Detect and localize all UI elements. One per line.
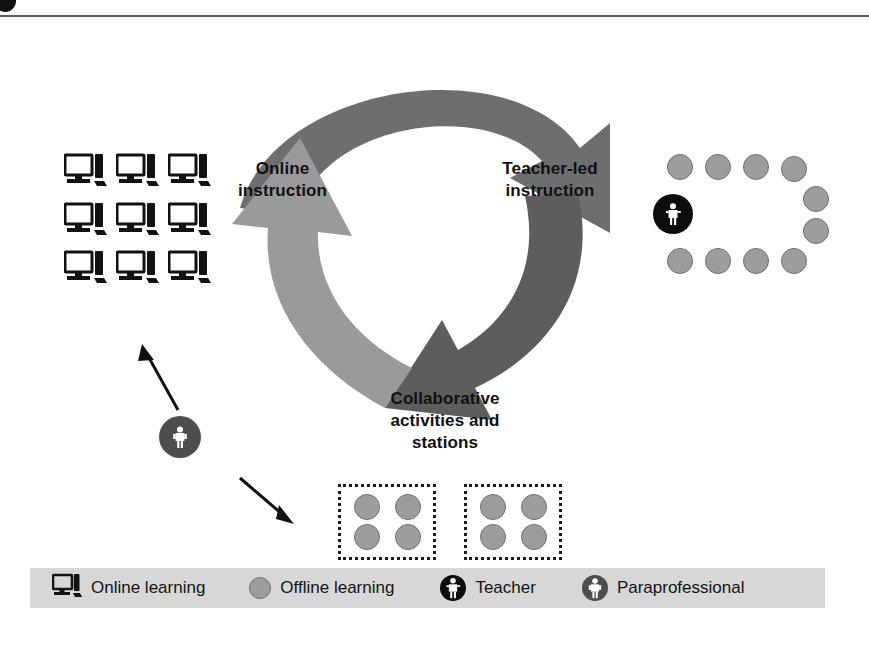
student-dot [803,186,829,212]
station-box [464,484,562,560]
student-dot [354,494,380,520]
label-online-line2: instruction [200,180,365,202]
student-dot [480,494,506,520]
arrow-para-to-stations [240,478,294,524]
diagram-canvas: Online instruction Teacher-led instructi… [0,18,869,558]
student-dot [521,494,547,520]
collaborative-stations [330,484,570,562]
station-box [338,484,436,560]
monitor-icon [168,152,212,190]
top-divider [0,15,869,17]
legend-bar: Online learning Offline learning Teacher [30,568,825,608]
student-dot [480,524,506,550]
student-dot [395,524,421,550]
monitor-icon [64,249,108,287]
legend-label-online-learning: Online learning [91,578,205,598]
legend-item-online-learning: Online learning [52,573,205,603]
legend-item-teacher: Teacher [440,575,535,601]
monitor-icon [116,152,160,190]
student-dot [354,524,380,550]
monitor-icon [168,201,212,239]
label-online-line1: Online [200,158,365,180]
label-collab-line3: stations [345,432,545,454]
student-dot [781,248,807,274]
teacher-icon [440,575,466,601]
monitor-icon [168,249,212,287]
student-dot [803,218,829,244]
label-collab-line2: activities and [345,410,545,432]
horseshoe-seating [645,152,835,280]
monitor-icon [52,573,82,603]
paraprofessional-icon [582,575,608,601]
student-dot [743,154,769,180]
student-dot [705,248,731,274]
student-dot [705,154,731,180]
arrow-para-to-computers [138,344,178,410]
monitor-icon [64,201,108,239]
student-dot [667,154,693,180]
legend-item-paraprofessional: Paraprofessional [582,575,745,601]
student-dot [667,248,693,274]
student-dot [521,524,547,550]
computer-grid [64,152,214,292]
label-collaborative-activities: Collaborative activities and stations [345,388,545,453]
legend-label-teacher: Teacher [475,578,535,598]
page-corner-mark [0,0,16,12]
legend-label-offline-learning: Offline learning [280,578,394,598]
student-dot [781,156,807,182]
label-teacher-line1: Teacher-led [455,158,645,180]
label-online-instruction: Online instruction [200,158,365,202]
arrow-teacher-to-collab [385,193,583,420]
monitor-icon [116,249,160,287]
teacher-icon [653,194,693,234]
monitor-icon [116,201,160,239]
student-dot [395,494,421,520]
label-teacher-led-instruction: Teacher-led instruction [455,158,645,202]
monitor-icon [64,152,108,190]
student-dot [743,248,769,274]
label-teacher-line2: instruction [455,180,645,202]
label-collab-line1: Collaborative [345,388,545,410]
paraprofessional-icon [159,416,201,458]
paraprofessional-arrows [100,318,330,528]
circle-icon [249,577,271,599]
legend-item-offline-learning: Offline learning [249,577,394,599]
legend-label-paraprofessional: Paraprofessional [617,578,745,598]
